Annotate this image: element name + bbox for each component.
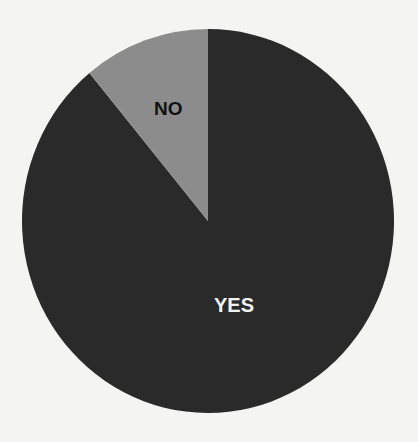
slice-yes <box>22 29 394 413</box>
slice-label-no: NO <box>154 98 183 120</box>
slice-label-yes: YES <box>214 294 254 317</box>
pie-chart <box>0 0 418 442</box>
